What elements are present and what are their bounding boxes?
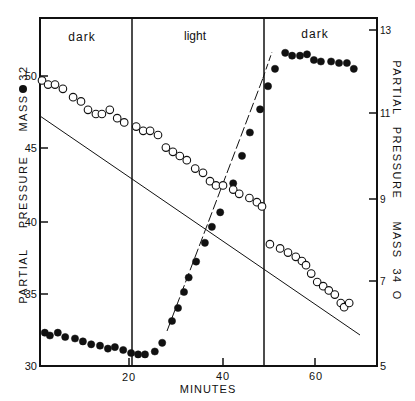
mass34-data-point [59, 85, 67, 93]
ytick-right-7: 7 [380, 276, 386, 287]
ytick-left-30: 30 [25, 360, 37, 372]
mass32-data-point [303, 51, 310, 58]
mass34-data-point [219, 182, 227, 190]
right-axis-title-pressure: PRESSURE [391, 127, 403, 200]
xtick-20: 20 [122, 371, 136, 383]
mass32-data-point [350, 65, 357, 72]
mass34-data-point [51, 81, 59, 89]
mass34-data-point [345, 299, 353, 307]
xtick-60: 60 [309, 370, 323, 382]
mass32-data-point [289, 52, 296, 59]
mass34-data-point [307, 270, 315, 278]
right-axis-title-partial: PARTIAL [391, 60, 403, 115]
right-y-axis [369, 30, 377, 281]
left-axis-title-pressure: PRESSURE [17, 156, 29, 229]
chart-canvas: dark light dark 50 45 40 35 30 13 11 9 7… [0, 0, 415, 401]
ytick-right-11: 11 [380, 108, 391, 119]
mass34-data-point [183, 156, 191, 164]
mass34-data-point [169, 148, 177, 156]
mass34-data-point [284, 249, 292, 257]
filled-circle-legend-icon [19, 85, 27, 93]
mass32-data-point [174, 304, 181, 311]
mass34-series [38, 77, 353, 311]
mass32-data-point [62, 333, 69, 340]
ytick-right-9: 9 [380, 194, 386, 205]
right-axis-title-34: 34 [391, 268, 403, 283]
left-y-axis [40, 76, 48, 294]
region-label-dark-1: dark [68, 30, 95, 44]
x-axis [129, 358, 315, 366]
mass32-data-point [335, 59, 342, 66]
mass32-data-point [238, 152, 245, 159]
ytick-left-45: 45 [25, 142, 37, 154]
mass32-data-point [257, 106, 264, 113]
mass32-data-point [246, 129, 253, 136]
ytick-right-5: 5 [380, 360, 386, 372]
mass34-data-point [154, 131, 162, 139]
mass34-data-point [98, 110, 106, 118]
mass32-data-point [208, 223, 215, 230]
mass34-data-point [258, 203, 266, 211]
xtick-40: 40 [216, 370, 230, 382]
right-axis-title-open-symbol: O [391, 291, 403, 300]
mass32-data-point [310, 56, 317, 63]
mass32-data-point [296, 52, 303, 59]
mass32-data-point [151, 348, 158, 355]
mass34-data-point [113, 114, 121, 122]
mass34-data-point [276, 245, 284, 253]
mass32-data-point [54, 329, 61, 336]
right-axis-title: PARTIAL PRESSURE MASS 34 O [391, 60, 403, 299]
mass34-data-point [331, 291, 339, 299]
left-axis-title-mass: MASS [17, 94, 29, 131]
mass34-data-point [162, 144, 170, 152]
mass32-data-point [111, 344, 118, 351]
mass34-data-point [69, 93, 77, 101]
mass32-data-point [135, 351, 142, 358]
mass34-data-point [302, 261, 310, 269]
x-axis-title: MINUTES [180, 383, 237, 395]
mass34-data-point [132, 123, 140, 131]
mass32-data-point [180, 288, 187, 295]
mass34-data-point [77, 98, 85, 106]
mass32-data-point [185, 274, 192, 281]
region-label-light: light [184, 29, 207, 43]
left-axis-title-32: 32 [17, 65, 29, 80]
mass32-data-point [264, 83, 271, 90]
mass32-data-point [96, 342, 103, 349]
mass34-data-point [176, 152, 184, 160]
mass32-data-point [104, 345, 111, 352]
mass32-series [41, 49, 357, 358]
mass32-data-point [193, 258, 200, 265]
mass32-data-point [71, 335, 78, 342]
mass34-data-point [106, 106, 114, 114]
mass32-data-point [88, 341, 95, 348]
mass34-data-point [235, 190, 243, 198]
ytick-right-13: 13 [380, 25, 392, 36]
mass34-data-point [120, 119, 128, 127]
mass34-data-point [199, 169, 207, 177]
mass34-data-point [191, 165, 199, 173]
mass34-data-point [84, 106, 92, 114]
mass32-data-point [141, 351, 148, 358]
mass34-data-point [246, 194, 254, 202]
mass32-data-point [46, 332, 53, 339]
mass32-data-point [168, 317, 175, 324]
right-axis-title-mass: MASS [391, 221, 403, 258]
mass32-data-point [128, 349, 135, 356]
mass34-data-point [266, 240, 274, 248]
mass32-data-point [317, 58, 324, 65]
mass32-data-point [79, 338, 86, 345]
plot-frame [40, 18, 377, 366]
mass32-data-point [120, 346, 127, 353]
mass32-data-point [328, 58, 335, 65]
mass34-data-point [146, 127, 154, 135]
mass32-data-point [201, 239, 208, 246]
mass32-data-point [217, 209, 224, 216]
mass34-fit-line [40, 116, 360, 335]
mass32-data-point [159, 339, 166, 346]
mass32-data-point [282, 49, 289, 56]
mass32-data-point [271, 65, 278, 72]
left-axis-title: PARTIAL PRESSURE MASS 32 [17, 65, 29, 303]
region-label-dark-2: dark [301, 27, 328, 41]
left-axis-title-partial: PARTIAL [17, 248, 29, 303]
